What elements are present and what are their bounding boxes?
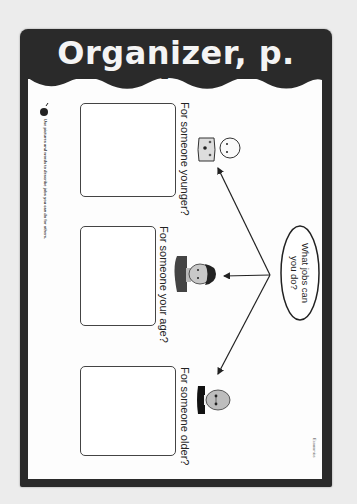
question-younger: For someone younger? bbox=[179, 102, 191, 216]
child-icon bbox=[175, 256, 217, 292]
answer-box-younger[interactable] bbox=[80, 103, 176, 197]
center-question-line2: you do? bbox=[289, 256, 300, 290]
center-question-line1: What jobs can bbox=[300, 243, 311, 303]
question-same-age: For someone your age? bbox=[158, 226, 170, 343]
arrow-to-younger bbox=[218, 168, 270, 275]
wavy-header-edge bbox=[28, 76, 322, 89]
question-older: For someone older? bbox=[179, 367, 191, 465]
subject-label: Economics bbox=[312, 438, 317, 458]
apple-icon bbox=[40, 103, 48, 116]
baby-icon bbox=[198, 138, 240, 161]
arrow-to-older bbox=[218, 275, 270, 374]
instructions-text: Use pictures and words to describe jobs … bbox=[43, 119, 48, 239]
elderly-man-icon bbox=[197, 386, 230, 414]
answer-box-same-age[interactable] bbox=[80, 226, 156, 326]
arrow-to-same-age bbox=[224, 275, 270, 276]
center-question: What jobs can you do? bbox=[289, 225, 311, 321]
answer-box-older[interactable] bbox=[80, 366, 176, 456]
